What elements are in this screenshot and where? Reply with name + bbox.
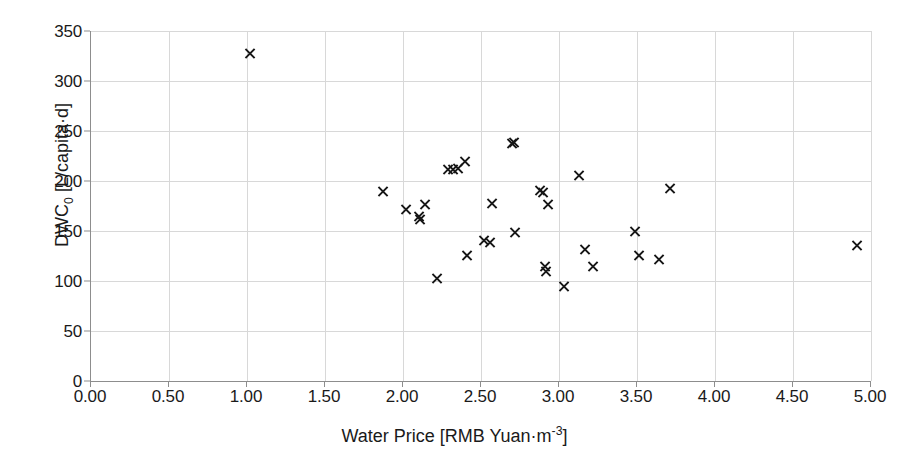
x-axis-title: Water Price [RMB Yuan·m-3] xyxy=(0,424,909,447)
gridline-vertical xyxy=(325,31,326,381)
plot-area xyxy=(90,31,871,382)
x-axis-tick-label: 4.50 xyxy=(757,388,827,405)
data-point-marker xyxy=(244,47,257,60)
data-point-marker xyxy=(534,184,547,197)
x-axis-tick-label: 3.50 xyxy=(601,388,671,405)
x-axis-tick-label: 1.50 xyxy=(289,388,359,405)
gridline-vertical xyxy=(559,31,560,381)
data-point-marker xyxy=(459,155,472,168)
x-axis-tick-mark xyxy=(324,381,325,387)
x-axis-tick-label: 0.00 xyxy=(55,388,125,405)
data-point-marker xyxy=(431,272,444,285)
data-point-marker xyxy=(542,198,555,211)
data-point-marker xyxy=(507,136,520,149)
data-point-marker xyxy=(537,186,550,199)
y-axis-tick-mark xyxy=(84,231,90,232)
x-axis-tick-label: 2.50 xyxy=(445,388,515,405)
data-point-marker xyxy=(418,198,431,211)
x-axis-tick-mark xyxy=(402,381,403,387)
x-axis-tick-mark xyxy=(792,381,793,387)
data-point-marker xyxy=(540,265,553,278)
data-point-marker xyxy=(652,253,665,266)
gridline-vertical xyxy=(481,31,482,381)
y-axis-tick-label: 50 xyxy=(0,323,82,340)
y-axis-tick-label: 200 xyxy=(0,173,82,190)
data-point-marker xyxy=(663,182,676,195)
data-point-marker xyxy=(506,137,519,150)
x-axis-tick-label: 3.00 xyxy=(523,388,593,405)
x-axis-tick-mark xyxy=(714,381,715,387)
data-point-marker xyxy=(509,226,522,239)
gridline-vertical xyxy=(247,31,248,381)
y-axis-tick-mark xyxy=(84,181,90,182)
data-point-marker xyxy=(460,249,473,262)
x-axis-tick-mark xyxy=(636,381,637,387)
data-point-marker xyxy=(485,197,498,210)
gridline-vertical xyxy=(169,31,170,381)
data-point-marker xyxy=(538,260,551,273)
y-axis-tick-mark xyxy=(84,331,90,332)
data-point-marker xyxy=(632,249,645,262)
y-axis-tick-label: 250 xyxy=(0,123,82,140)
x-axis-tick-label: 5.00 xyxy=(835,388,905,405)
x-axis-tick-label: 1.00 xyxy=(211,388,281,405)
data-point-marker xyxy=(376,185,389,198)
x-axis-tick-label: 2.00 xyxy=(367,388,437,405)
x-axis-tick-label: 4.00 xyxy=(679,388,749,405)
data-point-marker xyxy=(573,169,586,182)
x-axis-tick-mark xyxy=(90,381,91,387)
y-axis-tick-label: 300 xyxy=(0,73,82,90)
data-point-marker xyxy=(579,243,592,256)
gridline-vertical xyxy=(871,31,872,381)
gridline-vertical xyxy=(403,31,404,381)
y-axis-tick-mark xyxy=(84,131,90,132)
data-point-marker xyxy=(412,210,425,223)
data-point-marker xyxy=(451,162,464,175)
x-axis-tick-mark xyxy=(870,381,871,387)
y-axis-tick-label: 150 xyxy=(0,223,82,240)
scatter-chart: DWC0 [L/capita·d] Water Price [RMB Yuan·… xyxy=(0,0,909,469)
y-axis-tick-mark xyxy=(84,31,90,32)
x-axis-tick-mark xyxy=(246,381,247,387)
x-axis-tick-label: 0.50 xyxy=(133,388,203,405)
y-axis-tick-label: 0 xyxy=(0,373,82,390)
y-axis-tick-mark xyxy=(84,81,90,82)
data-point-marker xyxy=(442,163,455,176)
y-axis-tick-label: 350 xyxy=(0,23,82,40)
data-point-marker xyxy=(484,236,497,249)
data-point-marker xyxy=(400,203,413,216)
gridline-vertical xyxy=(793,31,794,381)
data-point-marker xyxy=(850,239,863,252)
y-axis-tick-mark xyxy=(84,281,90,282)
data-point-marker xyxy=(587,260,600,273)
data-point-marker xyxy=(446,163,459,176)
data-point-marker xyxy=(478,234,491,247)
gridline-vertical xyxy=(637,31,638,381)
x-axis-tick-mark xyxy=(558,381,559,387)
gridline-vertical xyxy=(715,31,716,381)
y-axis-tick-label: 100 xyxy=(0,273,82,290)
data-point-marker xyxy=(414,213,427,226)
x-axis-tick-mark xyxy=(480,381,481,387)
x-axis-tick-mark xyxy=(168,381,169,387)
